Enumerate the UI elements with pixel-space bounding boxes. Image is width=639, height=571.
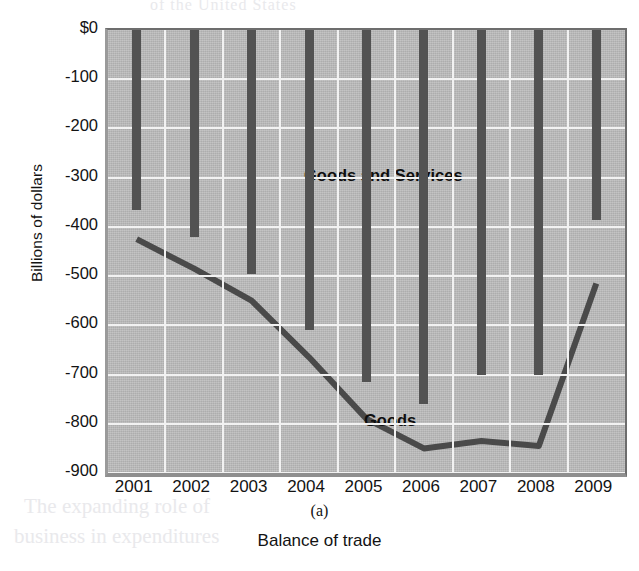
y-axis-tick-label: -900 (32, 462, 98, 478)
bar-goods-and-services (247, 30, 256, 274)
y-axis-tick-labels: $0-100-200-300-400-500-600-700-800-900 (30, 0, 98, 571)
x-axis-tick-label: 2008 (504, 477, 568, 497)
scan-bleed-top: of the United States (150, 0, 297, 14)
x-axis-tick-label: 2006 (389, 477, 453, 497)
x-axis-tick-label: 2002 (159, 477, 223, 497)
bar-goods-and-services (477, 30, 486, 375)
y-axis-tick-label: -700 (32, 364, 98, 380)
y-axis-tick-label: -400 (32, 216, 98, 232)
gridline-vertical (394, 30, 396, 473)
x-axis-tick-label: 2005 (332, 477, 396, 497)
bar-goods-and-services (305, 30, 314, 330)
bar-goods-and-services (132, 30, 141, 210)
y-axis-tick-label: -100 (32, 68, 98, 84)
plot-inner: Goods and Services Goods (108, 30, 625, 473)
gridline-vertical (222, 30, 224, 473)
bar-goods-and-services (534, 30, 543, 375)
goods-and-services-label: Goods and Services (304, 166, 463, 185)
x-axis-tick-label: 2001 (102, 477, 166, 497)
x-axis-tick-label: 2009 (561, 477, 625, 497)
y-axis-tick-label: -600 (32, 314, 98, 330)
x-axis-tick-labels: 200120022003200420052006200720082009 (105, 477, 622, 501)
figure-caption: Balance of trade (0, 531, 639, 551)
bar-goods-and-services (362, 30, 371, 382)
gridline-vertical (452, 30, 454, 473)
y-axis-tick-label: -500 (32, 265, 98, 281)
x-axis-tick-label: 2007 (446, 477, 510, 497)
bar-goods-and-services (419, 30, 428, 404)
bar-goods-and-services (592, 30, 601, 220)
plot-area: Goods and Services Goods (105, 28, 627, 477)
y-axis-tick-label: -200 (32, 117, 98, 133)
x-axis-tick-label: 2004 (274, 477, 338, 497)
gridline-vertical (567, 30, 569, 473)
y-axis-tick-label: -800 (32, 413, 98, 429)
gridline-vertical (279, 30, 281, 473)
gridline-vertical (509, 30, 511, 473)
gridline-vertical (337, 30, 339, 473)
bar-goods-and-services (190, 30, 199, 237)
y-axis-tick-label: -300 (32, 167, 98, 183)
gridline-horizontal (108, 472, 625, 474)
gridline-horizontal (108, 423, 625, 425)
balance-of-trade-figure: of the United States The expanding role … (0, 0, 639, 571)
gridline-vertical (164, 30, 166, 473)
y-axis-tick-label: $0 (32, 19, 98, 35)
panel-letter: (a) (0, 502, 639, 520)
goods-label: Goods (364, 411, 416, 430)
x-axis-tick-label: 2003 (217, 477, 281, 497)
